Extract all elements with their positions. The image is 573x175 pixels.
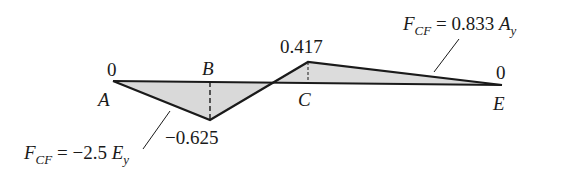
right-formula-var-sub: y: [511, 23, 517, 38]
right-formula: FCF = 0.833 Ay: [403, 14, 516, 33]
b-point-label: B: [202, 59, 214, 78]
left-formula-sub: CF: [36, 152, 53, 167]
left-formula-eq: = −2.5: [57, 142, 107, 163]
right-leader-line: [434, 39, 459, 72]
right-formula-eq: = 0.833: [436, 13, 494, 34]
left-formula-var: E: [112, 142, 124, 163]
right-formula-sub: CF: [415, 23, 432, 38]
negative-region: [113, 81, 271, 120]
a-value-label: 0: [107, 60, 117, 79]
e-value-label: 0: [496, 63, 506, 82]
right-formula-var: A: [499, 13, 511, 34]
right-formula-lhs: F: [403, 13, 415, 34]
left-formula-var-sub: y: [123, 152, 129, 167]
b-value-label: −0.625: [165, 128, 218, 147]
e-point-label: E: [493, 94, 505, 113]
c-point-label: C: [298, 90, 311, 109]
left-formula: FCF = −2.5 Ey: [24, 143, 129, 162]
left-formula-lhs: F: [24, 142, 36, 163]
c-value-label: 0.417: [280, 37, 323, 56]
a-point-label: A: [98, 90, 110, 109]
